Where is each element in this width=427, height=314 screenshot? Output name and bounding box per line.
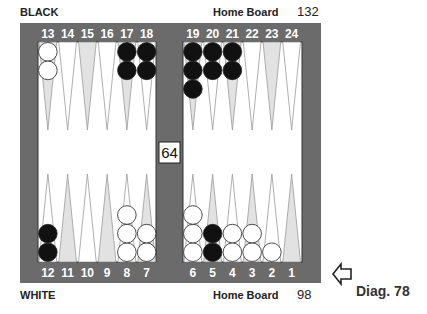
point-number-24: 24 [285,27,299,41]
point-number-10: 10 [81,266,95,280]
left-arrow-icon [333,264,351,284]
black-checker[interactable] [223,43,242,62]
black-checker[interactable] [184,61,203,80]
white-checker[interactable] [223,243,242,262]
bottom-pip-count: 98 [297,287,311,302]
black-checker[interactable] [118,61,137,80]
point-number-8: 8 [124,266,131,280]
black-checker[interactable] [118,43,137,62]
point-number-20: 20 [206,27,220,41]
white-checker[interactable] [39,43,58,62]
black-checker[interactable] [39,224,58,243]
white-checker[interactable] [137,243,156,262]
doubling-cube[interactable]: 64 [159,142,180,163]
point-number-9: 9 [104,266,111,280]
black-checker[interactable] [39,243,58,262]
point-number-4: 4 [229,266,236,280]
white-checker[interactable] [137,224,156,243]
white-checker[interactable] [39,61,58,80]
bottom-player-label: WHITE [20,289,55,301]
white-checker[interactable] [118,206,137,225]
diagram-number: Diag. 78 [356,283,410,299]
point-number-16: 16 [100,27,114,41]
point-number-6: 6 [190,266,197,280]
point-number-15: 15 [81,27,95,41]
white-checker[interactable] [243,243,262,262]
white-checker[interactable] [118,224,137,243]
point-number-17: 17 [120,27,134,41]
white-checker[interactable] [118,243,137,262]
point-number-1: 1 [288,266,295,280]
point-number-3: 3 [249,266,256,280]
cube-value: 64 [161,144,178,161]
point-number-18: 18 [140,27,154,41]
point-number-19: 19 [186,27,200,41]
black-checker[interactable] [203,43,222,62]
point-number-14: 14 [61,27,75,41]
white-checker[interactable] [263,243,282,262]
black-checker[interactable] [223,61,242,80]
white-checker[interactable] [184,224,203,243]
bottom-home-board-label: Home Board [213,289,278,301]
point-number-2: 2 [269,266,276,280]
point-number-7: 7 [143,266,150,280]
point-number-13: 13 [41,27,55,41]
point-number-12: 12 [41,266,55,280]
point-number-22: 22 [245,27,259,41]
white-checker[interactable] [243,224,262,243]
point-number-11: 11 [61,266,74,280]
point-number-21: 21 [226,27,240,41]
white-checker[interactable] [223,224,242,243]
black-checker[interactable] [203,61,222,80]
black-checker[interactable] [203,243,222,262]
black-checker[interactable] [137,43,156,62]
backgammon-board: 123456789101112131415161718192021222324 … [0,0,427,314]
point-number-5: 5 [209,266,216,280]
white-checker[interactable] [184,243,203,262]
black-checker[interactable] [137,61,156,80]
point-number-23: 23 [265,27,279,41]
white-checker[interactable] [184,206,203,225]
black-checker[interactable] [203,224,222,243]
black-checker[interactable] [184,43,203,62]
black-checker[interactable] [184,80,203,99]
